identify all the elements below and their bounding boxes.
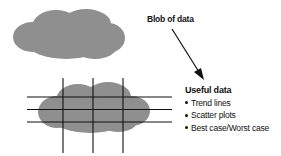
structured-data-cloud <box>38 82 150 133</box>
list-item: Trend lines <box>185 97 269 109</box>
bullet-icon <box>185 101 188 104</box>
useful-data-title: Useful data <box>185 85 231 95</box>
bullet-icon <box>185 126 188 129</box>
useful-data-list: Trend lines Scatter plots Best case/Wors… <box>185 97 269 134</box>
arrow-icon <box>172 29 204 80</box>
list-item: Best case/Worst case <box>185 122 269 134</box>
list-item: Scatter plots <box>185 109 269 121</box>
raw-data-cloud <box>13 9 125 59</box>
bullet-icon <box>185 114 188 117</box>
blob-of-data-label: Blob of data <box>147 14 194 24</box>
